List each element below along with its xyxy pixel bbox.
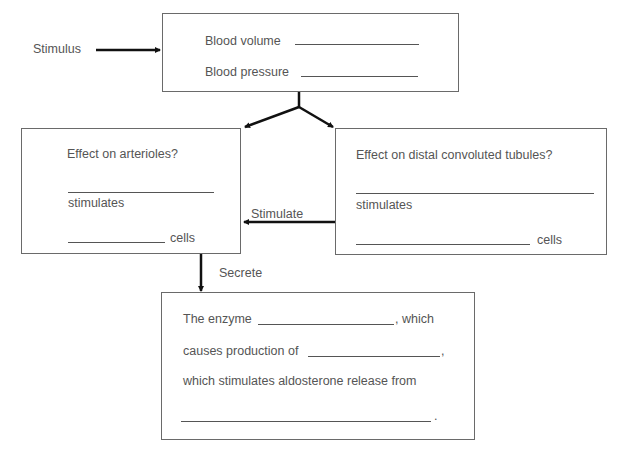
arterioles-cells-label: cells [170, 232, 195, 245]
arterioles-cells-blank[interactable] [68, 242, 165, 243]
tubules-stimulates-label: stimulates [356, 199, 412, 212]
blood-volume-blank[interactable] [295, 44, 419, 45]
arterioles-answer-blank[interactable] [68, 192, 214, 193]
tubules-cells-blank[interactable] [356, 244, 530, 245]
aldosterone-source-blank[interactable] [181, 421, 431, 422]
production-blank[interactable] [308, 356, 440, 357]
tubules-question: Effect on distal convoluted tubules? [356, 149, 552, 162]
stimulus-label: Stimulus [33, 43, 81, 56]
tubules-answer-blank[interactable] [356, 193, 594, 194]
enzyme-prefix: The enzyme [183, 313, 252, 326]
blood-pressure-label: Blood pressure [205, 66, 289, 79]
arterioles-question: Effect on arterioles? [67, 148, 178, 161]
production-prefix: causes production of [183, 345, 298, 358]
blood-pressure-blank[interactable] [301, 76, 418, 77]
aldosterone-text: which stimulates aldosterone release fro… [183, 375, 416, 388]
split-arrow-right [299, 107, 333, 127]
arterioles-stimulates-label: stimulates [68, 197, 124, 210]
enzyme-blank[interactable] [258, 324, 394, 325]
enzyme-suffix: , which [395, 313, 434, 326]
secrete-label: Secrete [219, 267, 262, 280]
tubules-cells-label: cells [537, 234, 562, 247]
stimulate-label: Stimulate [251, 208, 303, 221]
top-box [162, 13, 459, 92]
final-period: . [434, 410, 437, 423]
blood-volume-label: Blood volume [205, 35, 281, 48]
split-arrow-left [245, 107, 299, 127]
production-suffix: , [441, 345, 444, 358]
